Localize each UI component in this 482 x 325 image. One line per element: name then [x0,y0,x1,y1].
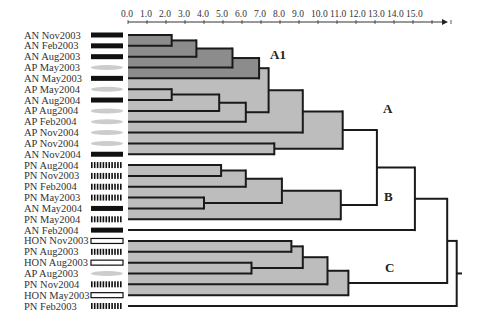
hatched-bar-icon [106,281,108,287]
solid-bar-icon [91,33,123,38]
hatched-bar-icon [111,184,113,190]
leaf-label: AN Feb2004 [24,225,79,236]
hatched-bar-icon [94,216,96,222]
grey-ellipse-icon [91,271,123,276]
hatched-bar-icon [108,216,110,222]
axis-tick-label: 15.0 [406,9,423,19]
hatched-bar-icon [106,195,108,201]
leaf-label: AN Nov2004 [24,149,82,160]
hatched-bar-icon [97,249,99,255]
hatched-bar-icon [117,184,119,190]
hatched-bar-icon [94,195,96,201]
solid-bar-icon [91,54,123,59]
axis-tick-label: 10.0 [311,9,328,19]
open-rect-icon [91,293,123,298]
hatched-bar-icon [120,195,122,201]
leaf-label: AP Aug2003 [24,268,78,279]
leaf-label: HON May2003 [24,290,90,301]
leaf-label: AP Aug2004 [24,105,79,116]
hatched-bar-icon [91,162,93,168]
cluster-label: C [385,260,394,275]
hatched-bar-icon [108,173,110,179]
hatched-bar-icon [97,184,99,190]
hatched-bar-icon [97,281,99,287]
hatched-bar-icon [114,281,116,287]
hatched-bar-icon [117,173,119,179]
hatched-bar-icon [114,216,116,222]
axis-tick-label: 2.0 [159,9,171,19]
leaf-label: PN Aug2004 [24,160,79,171]
solid-bar-icon [91,76,123,81]
leaf-label: AN Aug2003 [24,51,80,62]
hatched-bar-icon [117,162,119,168]
hatched-bar-icon [94,173,96,179]
solid-bar-icon [91,152,123,157]
leaf-label: AP May2003 [24,62,80,73]
hatched-bar-icon [91,173,93,179]
hatched-bar-icon [100,195,102,201]
hatched-bar-icon [100,249,102,255]
hatched-bar-icon [108,281,110,287]
hatched-bar-icon [103,162,105,168]
hatched-bar-icon [111,195,113,201]
hatched-bar-icon [103,216,105,222]
hatched-bar-icon [91,249,93,255]
hatched-bar-icon [108,162,110,168]
hatched-bar-icon [103,173,105,179]
hatched-bar-icon [108,303,110,309]
axis-tick-label: 13.0 [368,9,385,19]
hatched-bar-icon [108,195,110,201]
leaf-label: HON Aug2003 [24,257,88,268]
leaf-label: PN Feb2004 [24,181,78,192]
hatched-bar-icon [120,216,122,222]
cluster-fill [128,143,274,154]
hatched-bar-icon [111,162,113,168]
leaf-label: AP Nov2004 [24,127,79,138]
hatched-bar-icon [91,195,93,201]
hatched-bar-icon [114,184,116,190]
hatched-bar-icon [97,195,99,201]
leaf-label: AN Feb2003 [24,40,79,51]
cluster-fill [128,165,221,176]
hatched-bar-icon [111,303,113,309]
solid-bar-icon [91,98,123,103]
hatched-bar-icon [117,303,119,309]
hatched-bar-icon [114,195,116,201]
leaf-label: AP Nov2004 [24,138,79,149]
grey-ellipse-icon [91,141,123,146]
hatched-bar-icon [106,216,108,222]
grey-ellipse-icon [91,119,123,124]
hatched-bar-icon [94,249,96,255]
hatched-bar-icon [103,281,105,287]
solid-bar-icon [91,43,123,48]
hatched-bar-icon [100,184,102,190]
hatched-bar-icon [94,303,96,309]
hatched-bar-icon [117,249,119,255]
hatched-bar-icon [106,173,108,179]
axis-tick-label: 1.0 [140,9,152,19]
hatched-bar-icon [111,216,113,222]
hatched-bar-icon [120,173,122,179]
hatched-bar-icon [108,184,110,190]
axis-tick-label: 3.0 [178,9,190,19]
axis-tick-label: 12.0 [349,9,366,19]
leaf-label: AN Nov2003 [24,30,81,41]
solid-bar-icon [91,206,123,211]
leaf-label: PN May2004 [24,214,81,225]
hatched-bar-icon [91,184,93,190]
axis-tick-label: 14.0 [387,9,404,19]
axis-tick-label: 5.0 [216,9,228,19]
leaf-label: PN Nov2003 [24,170,79,181]
hatched-bar-icon [91,216,93,222]
hatched-bar-icon [100,281,102,287]
axis-tick-label: 8.0 [273,9,285,19]
leaf-label: PN Feb2003 [24,301,77,312]
leaf-label: PN Nov2004 [24,279,80,290]
dendrogram-figure: 0.01.02.03.04.05.06.07.08.09.010.011.012… [0,0,482,325]
hatched-bar-icon [117,195,119,201]
open-rect-icon [91,238,123,243]
cluster-label: B [384,189,393,204]
leaf-labels: AN Nov2003AN Feb2003AN Aug2003AP May2003… [24,30,90,312]
hatched-bar-icon [117,216,119,222]
hatched-bar-icon [120,303,122,309]
